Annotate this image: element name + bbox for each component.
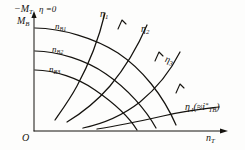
y-intercept-label: MB: [17, 16, 30, 28]
diagram-canvas: [0, 0, 245, 150]
figure-container: −MT η =0 MB nB1 nB2 nB3 η1 η2 η3 η4(≈i*T…: [0, 0, 245, 150]
y-intercept-label-sub: B: [25, 20, 29, 27]
eta4-label-suffix: (≈i: [193, 101, 205, 112]
eta1-label-sub: 1: [105, 13, 108, 20]
x-axis-arrowhead: [220, 128, 228, 133]
eta1-curve-label: η1: [100, 9, 108, 21]
nb2-curve-label: nB2: [52, 45, 63, 55]
nb1-curve: [35, 28, 176, 125]
x-axis-label-sub: T: [211, 137, 215, 144]
direction-marker-3-icon: [176, 84, 184, 93]
y-axis-label-sub: T: [29, 8, 33, 15]
nb3-curve: [35, 70, 137, 130]
y-axis-label: −MT: [14, 4, 33, 16]
direction-marker-2-icon: [155, 52, 163, 61]
eta2-label-sub: 2: [146, 28, 149, 35]
eta4-label-close: ): [216, 101, 219, 112]
nb2-curve: [35, 51, 156, 128]
eta4-curve-label: η4(≈i*TB): [185, 102, 220, 114]
direction-marker-1-icon: [118, 20, 126, 29]
y-axis-label-main: −M: [14, 3, 29, 14]
nb3-label-sub: B3: [54, 69, 61, 75]
nb1-curve-label: nB1: [55, 22, 66, 32]
origin-label: O: [22, 133, 29, 143]
eta-zero-annotation-text: η =0: [39, 4, 56, 14]
nb3-curve-label: nB3: [49, 65, 60, 75]
x-axis-label: nT: [206, 133, 215, 145]
eta2-curve-label: η2: [141, 24, 149, 36]
eta2-curve: [67, 25, 147, 122]
nb2-label-sub: B2: [57, 49, 64, 55]
eta-zero-annotation: η =0: [39, 5, 56, 14]
nb1-label-sub: B1: [60, 26, 67, 32]
